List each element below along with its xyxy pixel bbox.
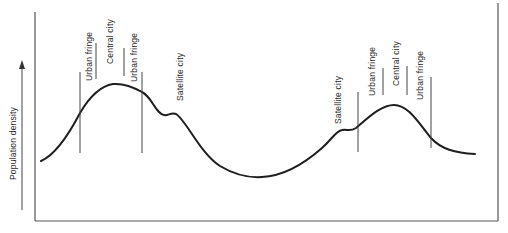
label-urban-fringe: Urban fringe [367, 47, 377, 96]
density-curve [41, 84, 475, 177]
right-city-labels: Satellite city Urban fringe Central city… [333, 41, 425, 124]
label-central-city: Central city [391, 41, 401, 86]
label-central-city: Central city [105, 19, 115, 64]
arrow-up-icon [19, 60, 25, 69]
label-satellite-city: Satellite city [175, 52, 185, 101]
population-density-diagram: Population density Urban fringe Central … [0, 0, 508, 233]
label-urban-fringe: Urban fringe [84, 32, 94, 81]
label-urban-fringe: Urban fringe [415, 51, 425, 100]
label-urban-fringe: Urban fringe [129, 33, 139, 82]
label-satellite-city: Satellite city [333, 75, 343, 124]
y-axis-arrow [19, 60, 25, 210]
y-axis-label: Population density [8, 106, 18, 180]
